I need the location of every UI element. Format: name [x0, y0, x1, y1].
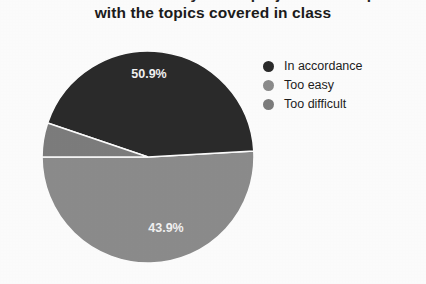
legend-label-too-difficult: Too difficult — [284, 95, 346, 113]
chart-legend: In accordance Too easy Too difficult — [263, 57, 423, 114]
pie-slice-label-in-accordance: 43.9% — [148, 221, 183, 235]
legend-item-too-easy[interactable]: Too easy — [263, 76, 423, 94]
pie-chart: 50.9% 43.9% — [41, 50, 255, 264]
chart-title: Evaluation of the difficulty of the proj… — [0, 0, 426, 22]
pie-chart-svg: 50.9% 43.9% — [41, 50, 255, 264]
circle-swatch-icon — [263, 80, 274, 91]
legend-item-too-difficult[interactable]: Too difficult — [263, 95, 423, 113]
legend-label-too-easy: Too easy — [284, 76, 334, 94]
circle-swatch-icon — [263, 99, 274, 110]
pie-slice-too-easy[interactable] — [42, 151, 254, 263]
chart-title-line-2: with the topics covered in class — [0, 3, 426, 22]
legend-label-in-accordance: In accordance — [284, 57, 363, 75]
circle-swatch-icon — [263, 61, 274, 72]
legend-item-in-accordance[interactable]: In accordance — [263, 57, 423, 75]
pie-slice-label-too-easy: 50.9% — [131, 67, 166, 81]
